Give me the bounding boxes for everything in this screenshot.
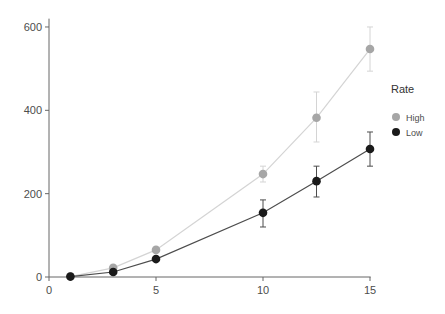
legend: RateHighLow [391,83,425,138]
data-point [312,177,321,186]
data-point [109,268,118,277]
series-line [70,149,370,277]
series-line [70,49,370,277]
axes: 0200400600051015 [24,19,376,296]
data-point [366,145,375,154]
data-point [312,114,321,123]
data-point [152,246,161,255]
data-point [259,209,268,218]
legend-label-high: High [406,113,425,123]
x-tick-label: 15 [364,284,376,296]
data-point [259,170,268,179]
data-point [152,255,161,264]
x-tick-label: 0 [46,284,52,296]
data-point [66,272,75,281]
legend-marker-high [392,113,400,121]
y-tick-label: 0 [36,271,42,283]
x-tick-label: 5 [153,284,159,296]
y-tick-label: 600 [24,21,42,33]
legend-marker-low [392,128,400,136]
line-chart: 0200400600051015 RateHighLow [0,0,445,314]
series-group [66,27,374,281]
legend-title: Rate [391,83,414,95]
x-tick-label: 10 [257,284,269,296]
y-tick-label: 400 [24,104,42,116]
y-tick-label: 200 [24,188,42,200]
series-low [66,132,374,281]
series-high [66,27,374,281]
legend-label-low: Low [406,128,423,138]
data-point [366,45,375,54]
